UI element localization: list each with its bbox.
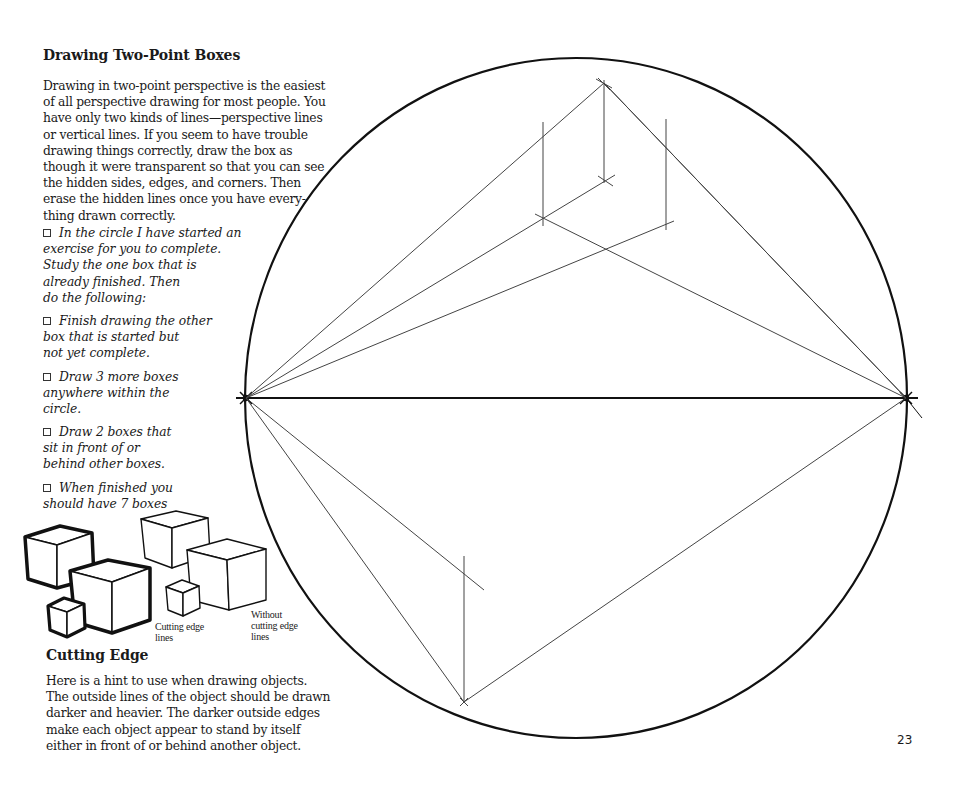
caption-line: Cutting edge (155, 621, 204, 632)
page-number: 23 (897, 733, 912, 747)
paragraph-line: Here is a hint to use when drawing objec… (46, 673, 366, 689)
caption-without-cutting-edge: Without cutting edge lines (251, 609, 298, 642)
paragraph-line: The outside lines of the object should b… (46, 689, 366, 705)
caption-line: lines (155, 632, 204, 643)
caption-line: cutting edge (251, 620, 298, 631)
section-title-cutting-edge: Cutting Edge (46, 647, 148, 663)
paragraph-line: make each object appear to stand by itse… (46, 722, 366, 738)
box-without-cutting-edge-small (166, 580, 200, 616)
box-with-cutting-edge-small (48, 598, 85, 637)
cutting-edge-paragraph: Here is a hint to use when drawing objec… (46, 673, 366, 754)
caption-with-cutting-edge: Cutting edge lines (155, 621, 204, 643)
paragraph-line: either in front of or behind another obj… (46, 738, 366, 754)
paragraph-line: darker and heavier. The darker outside e… (46, 705, 366, 721)
caption-line: lines (251, 631, 298, 642)
caption-line: Without (251, 609, 298, 620)
